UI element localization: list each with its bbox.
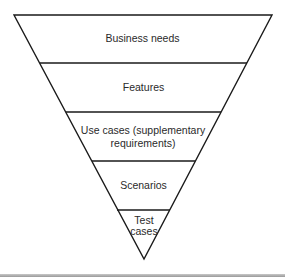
level-business-needs: Business needs (40, 32, 245, 45)
level-label-line2: cases (118, 226, 170, 237)
level-label-line1: Use cases (supplementary (68, 124, 218, 137)
level-scenarios: Scenarios (92, 179, 195, 192)
level-features: Features (66, 81, 221, 94)
level-use-cases: Use cases (supplementary requirements) (68, 124, 218, 149)
level-label: Scenarios (120, 179, 167, 191)
level-test-cases: Test cases (118, 215, 170, 237)
level-label-line2: requirements) (68, 137, 218, 150)
level-label: Features (123, 81, 164, 93)
level-label: Business needs (105, 32, 179, 44)
